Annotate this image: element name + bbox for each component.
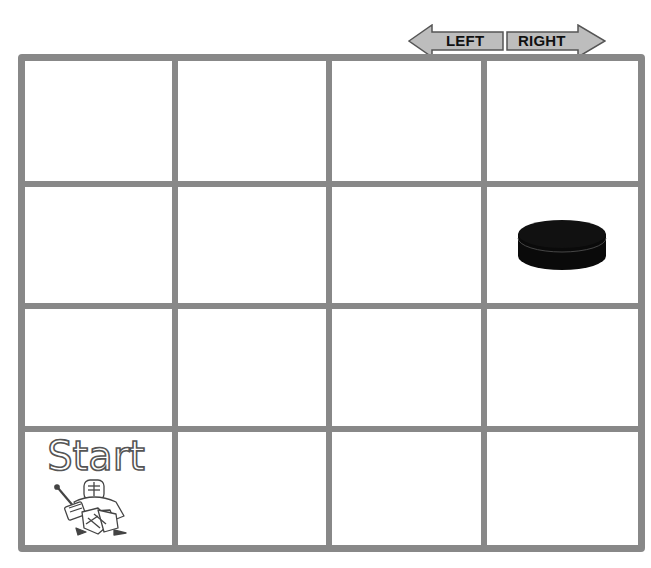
left-arrow-button[interactable]: LEFT	[408, 24, 504, 58]
cell-r1-c1[interactable]	[25, 61, 172, 181]
right-arrow-button[interactable]: RIGHT	[506, 24, 606, 58]
cell-r2-c2[interactable]	[178, 187, 326, 303]
start-label: Start	[26, 430, 166, 480]
right-label: RIGHT	[518, 24, 566, 58]
cell-r4-c4[interactable]	[487, 432, 638, 545]
svg-text:Start: Start	[47, 433, 145, 479]
cell-r2-c1[interactable]	[25, 187, 172, 303]
cell-r1-c3[interactable]	[332, 61, 481, 181]
goalie-player-icon[interactable]	[40, 478, 150, 538]
cell-r3-c4[interactable]	[487, 309, 638, 426]
cell-r4-c2[interactable]	[178, 432, 326, 545]
cell-r2-c3[interactable]	[332, 187, 481, 303]
cell-r3-c2[interactable]	[178, 309, 326, 426]
cell-r3-c1[interactable]	[25, 309, 172, 426]
hockey-puck-icon[interactable]	[514, 216, 610, 274]
direction-controls: LEFT RIGHT	[408, 24, 606, 58]
cell-r1-c4[interactable]	[487, 61, 638, 181]
left-label: LEFT	[446, 24, 484, 58]
cell-r3-c3[interactable]	[332, 309, 481, 426]
cell-r4-c3[interactable]	[332, 432, 481, 545]
cell-r1-c2[interactable]	[178, 61, 326, 181]
